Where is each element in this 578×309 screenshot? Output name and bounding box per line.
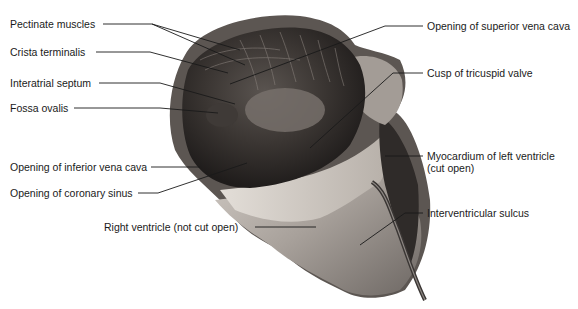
label-right-ventricle: Right ventricle (not cut open)	[104, 221, 238, 233]
label-inferior-vena-cava: Opening of inferior vena cava	[10, 161, 147, 173]
anatomy-figure: Pectinate muscles Crista terminalis Inte…	[0, 0, 578, 309]
label-interatrial-septum: Interatrial septum	[10, 77, 91, 89]
label-interventricular-sulcus: Interventricular sulcus	[427, 207, 529, 219]
label-crista-terminalis: Crista terminalis	[10, 46, 85, 58]
fossa-ovalis	[206, 103, 238, 127]
label-pectinate-muscles: Pectinate muscles	[10, 18, 95, 30]
label-superior-vena-cava: Opening of superior vena cava	[427, 20, 570, 32]
label-fossa-ovalis: Fossa ovalis	[10, 102, 68, 114]
label-lv-myocardium-cut-open: (cut open)	[427, 162, 474, 174]
interatrial-septum	[245, 88, 325, 132]
label-tricuspid-cusp: Cusp of tricuspid valve	[427, 67, 533, 79]
label-coronary-sinus: Opening of coronary sinus	[10, 187, 133, 199]
label-lv-myocardium: Myocardium of left ventricle	[427, 150, 555, 162]
